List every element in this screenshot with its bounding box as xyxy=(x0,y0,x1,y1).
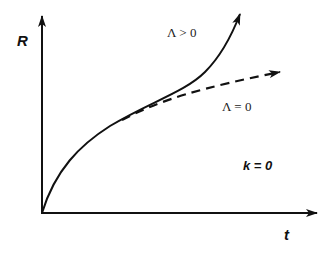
curve-lambda-positive xyxy=(42,14,240,213)
y-axis-label: R xyxy=(17,32,28,49)
label-lambda-zero: Λ = 0 xyxy=(222,99,251,114)
curve-lambda-zero xyxy=(122,72,280,120)
curvature-annotation: k = 0 xyxy=(243,158,273,173)
scale-factor-diagram: R t Λ > 0 Λ = 0 k = 0 xyxy=(0,0,333,259)
x-axis-label: t xyxy=(284,226,290,243)
label-lambda-positive: Λ > 0 xyxy=(167,25,196,40)
